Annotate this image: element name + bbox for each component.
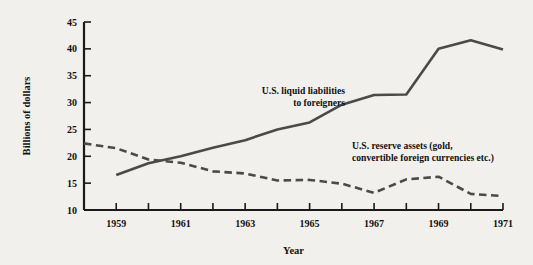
x-tick-label: 1967 <box>364 218 384 229</box>
y-axis-title: Billions of dollars <box>21 77 32 156</box>
y-tick-label: 15 <box>67 178 77 189</box>
x-tick-label: 1965 <box>300 218 320 229</box>
x-tick-label: 1963 <box>235 218 255 229</box>
reserve-assets-label: U.S. reserve assets (gold, <box>352 140 453 152</box>
y-tick-label: 45 <box>67 17 77 28</box>
x-tick-label: 1961 <box>171 218 191 229</box>
y-tick-label: 10 <box>67 205 77 216</box>
liquid-liabilities-label: U.S. liquid liabilities <box>262 85 345 96</box>
reserve-assets-label: convertible foreign currencies etc.) <box>352 152 494 164</box>
chart-container: 1015202530354045195919611963196519671969… <box>0 0 533 265</box>
line-chart: 1015202530354045195919611963196519671969… <box>0 0 533 265</box>
y-tick-label: 30 <box>67 97 77 108</box>
y-tick-label: 35 <box>67 70 77 81</box>
y-tick-label: 20 <box>67 151 77 162</box>
x-tick-label: 1971 <box>493 218 513 229</box>
y-tick-label: 25 <box>67 124 77 135</box>
x-axis-title: Year <box>283 245 304 256</box>
x-tick-label: 1969 <box>429 218 449 229</box>
x-tick-label: 1959 <box>106 218 126 229</box>
liquid-liabilities-label: to foreigners <box>293 97 345 108</box>
y-tick-label: 40 <box>67 43 77 54</box>
